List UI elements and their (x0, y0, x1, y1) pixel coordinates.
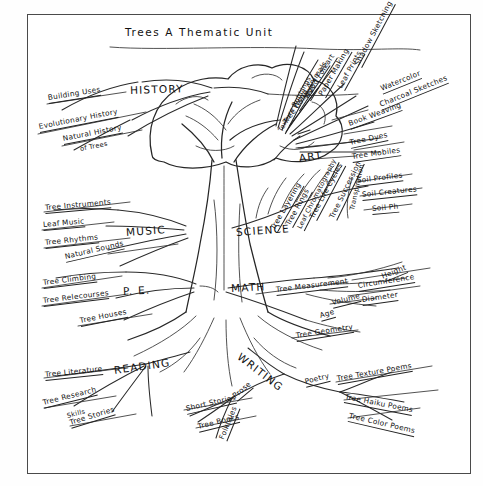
title-underline (110, 47, 420, 50)
node-history[interactable]: HISTORY (130, 82, 184, 96)
node-pe[interactable]: P. E. (123, 284, 151, 297)
node-math[interactable]: MATH (231, 280, 266, 294)
mindmap-page: Trees A Thematic Unit (0, 0, 483, 486)
